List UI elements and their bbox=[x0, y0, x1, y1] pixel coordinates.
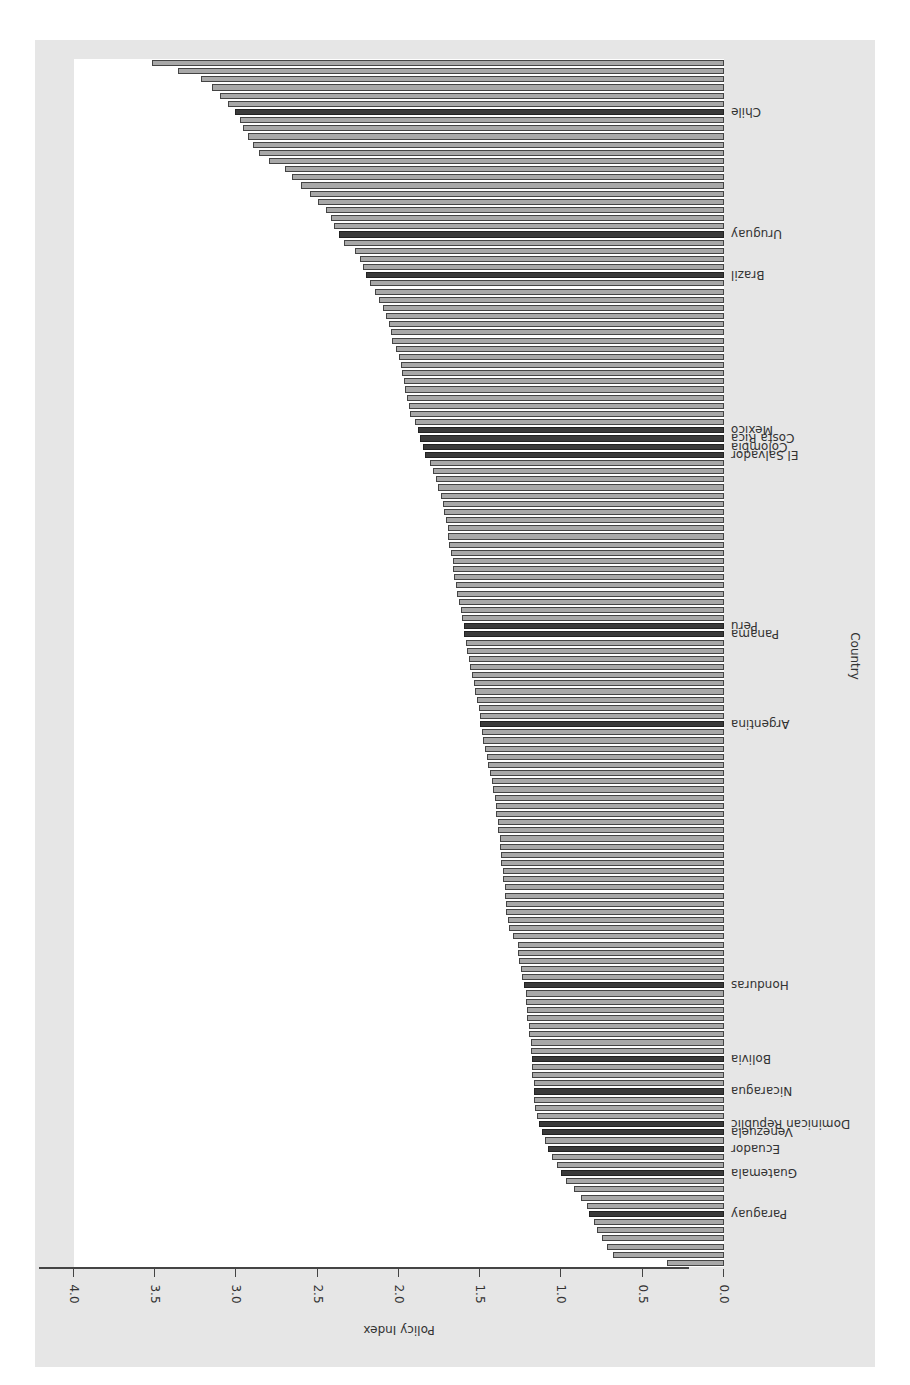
country-label: Honduras bbox=[731, 981, 855, 989]
bar bbox=[404, 378, 724, 384]
bar bbox=[228, 101, 724, 107]
bars bbox=[74, 59, 724, 1267]
bar bbox=[513, 933, 724, 939]
rotated-page: Policy Index 0.00.51.01.52.02.53.03.54.0… bbox=[0, 0, 910, 1385]
bar bbox=[399, 354, 724, 360]
bar-bolivia bbox=[532, 1056, 724, 1062]
bar bbox=[581, 1195, 724, 1201]
bar bbox=[310, 191, 724, 197]
bar bbox=[526, 990, 724, 996]
x-tick-label: 1.5 bbox=[473, 1279, 487, 1309]
plot-area bbox=[74, 59, 724, 1267]
bar bbox=[566, 1178, 724, 1184]
bar bbox=[557, 1162, 724, 1168]
bar bbox=[523, 974, 725, 980]
bar bbox=[285, 166, 724, 172]
bar bbox=[490, 770, 724, 776]
x-tick bbox=[479, 1269, 480, 1277]
country-label: Chile bbox=[731, 108, 855, 116]
bar bbox=[458, 591, 725, 597]
bar bbox=[326, 207, 724, 213]
country-label: Paraguay bbox=[731, 1210, 855, 1218]
bar bbox=[534, 1080, 724, 1086]
bar bbox=[495, 795, 724, 801]
bar bbox=[614, 1252, 725, 1258]
bar bbox=[497, 811, 725, 817]
bar bbox=[493, 786, 724, 792]
bar bbox=[469, 656, 724, 662]
x-tick bbox=[642, 1269, 643, 1277]
bar bbox=[497, 803, 725, 809]
bar-paraguay bbox=[589, 1211, 724, 1217]
bar-nicaragua bbox=[534, 1088, 724, 1094]
bar bbox=[344, 240, 724, 246]
bar bbox=[331, 215, 724, 221]
bar bbox=[552, 1154, 724, 1160]
bar bbox=[410, 411, 724, 417]
bar-dominican-republic bbox=[539, 1121, 724, 1127]
country-label: Mexico bbox=[731, 426, 855, 434]
y-axis-label: Country bbox=[848, 632, 862, 680]
bar bbox=[471, 664, 725, 670]
bar bbox=[152, 60, 724, 66]
bar bbox=[510, 925, 725, 931]
bar bbox=[178, 68, 724, 74]
bar bbox=[445, 509, 725, 515]
bar bbox=[521, 966, 724, 972]
bar-argentina bbox=[480, 721, 724, 727]
x-tick-label: 0.0 bbox=[717, 1279, 731, 1309]
x-tick-label: 3.0 bbox=[230, 1279, 244, 1309]
bar bbox=[498, 827, 724, 833]
bar bbox=[391, 329, 724, 335]
bar bbox=[355, 248, 724, 254]
x-tick-label: 4.0 bbox=[67, 1279, 81, 1309]
x-tick-label: 2.0 bbox=[392, 1279, 406, 1309]
bar bbox=[269, 158, 724, 164]
bar bbox=[501, 860, 724, 866]
bar-mexico bbox=[419, 427, 725, 433]
bar-costa-rica bbox=[420, 435, 724, 441]
bar bbox=[534, 1097, 724, 1103]
bar bbox=[448, 525, 724, 531]
country-label: Peru bbox=[731, 622, 855, 630]
bar bbox=[505, 884, 724, 890]
bar bbox=[597, 1227, 724, 1233]
country-label: Guatemala bbox=[731, 1169, 855, 1177]
bar bbox=[402, 370, 724, 376]
bar-chile bbox=[235, 109, 724, 115]
bar bbox=[459, 599, 724, 605]
bar-honduras bbox=[524, 982, 724, 988]
x-axis-line bbox=[39, 1267, 689, 1269]
bar-panama bbox=[464, 631, 724, 637]
x-tick bbox=[73, 1269, 74, 1277]
bar bbox=[500, 835, 724, 841]
bar bbox=[449, 542, 724, 548]
bar bbox=[441, 493, 724, 499]
country-label: Dominican Republic bbox=[731, 1120, 855, 1128]
bar bbox=[488, 762, 724, 768]
bar-venezuela bbox=[542, 1129, 724, 1135]
bar bbox=[240, 117, 724, 123]
country-label: Bolivia bbox=[731, 1055, 855, 1063]
bar bbox=[393, 338, 725, 344]
bar bbox=[505, 893, 724, 899]
bar bbox=[484, 737, 725, 743]
bar bbox=[446, 517, 724, 523]
bar-ecuador bbox=[549, 1146, 725, 1152]
bar bbox=[466, 640, 724, 646]
bar bbox=[526, 999, 724, 1005]
bar bbox=[396, 346, 724, 352]
bar bbox=[212, 84, 724, 90]
bar bbox=[433, 468, 724, 474]
bar bbox=[259, 150, 724, 156]
bar bbox=[443, 501, 724, 507]
bar bbox=[318, 199, 724, 205]
bar bbox=[537, 1113, 724, 1119]
bar bbox=[529, 1031, 724, 1037]
bar bbox=[448, 533, 724, 539]
bar bbox=[531, 1039, 724, 1045]
bar bbox=[467, 648, 724, 654]
x-axis-label: Policy Index bbox=[309, 1323, 489, 1337]
country-label: Brazil bbox=[731, 271, 855, 279]
bar bbox=[545, 1137, 724, 1143]
